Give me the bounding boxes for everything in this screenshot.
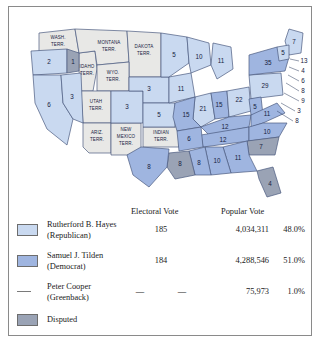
candidate-party-tilden: (Democrat) xyxy=(47,262,103,273)
territory-label-dakota-2: TERR. xyxy=(137,51,151,56)
results-legend-table: Electoral Vote Popular Vote Rutherford B… xyxy=(9,206,311,334)
state-label-virginia: 11 xyxy=(264,110,271,117)
state-label-new-york: 35 xyxy=(264,59,272,66)
candidate-name-hayes: Rutherford B. Hayes (Republican) xyxy=(47,220,117,241)
state-label-alabama: 10 xyxy=(213,157,221,164)
state-label-illinois: 21 xyxy=(199,105,207,112)
territory-label-indian-1: INDIAN xyxy=(153,130,169,135)
state-label-ohio: 22 xyxy=(235,96,243,103)
state-label-north-carolina: 10 xyxy=(263,128,271,135)
state-label-maryland: 8 xyxy=(295,117,299,124)
table-row-cooper: Peter Cooper (Greenback) — — 75,973 1.0% xyxy=(9,284,311,309)
state-label-indiana: 15 xyxy=(215,101,223,108)
state-label-idaho-sliver: 1 xyxy=(71,58,75,65)
territory-label-montana-1: MONTANA xyxy=(98,40,121,45)
state-label-new-jersey: 9 xyxy=(301,97,305,104)
state-label-tennessee: 12 xyxy=(219,136,227,143)
state-label-west-virginia: 5 xyxy=(253,103,257,110)
state-label-maine: 7 xyxy=(292,38,296,45)
state-label-louisiana: 8 xyxy=(178,160,182,167)
state-label-nebraska: 3 xyxy=(147,85,151,92)
territory-label-montana-2: TERR. xyxy=(102,47,116,52)
popular-vote-tilden: 4,288,546 xyxy=(213,256,269,265)
state-label-georgia: 11 xyxy=(235,154,242,161)
state-label-nevada: 3 xyxy=(70,93,74,100)
legend-swatch-disputed xyxy=(17,314,38,326)
leader-line-rhode-island xyxy=(288,75,299,81)
territory-label-idaho-1: IDAHO xyxy=(80,64,95,69)
state-label-connecticut: 8 xyxy=(301,87,305,94)
territory-label-dakota-1: DAKOTA xyxy=(135,44,154,49)
election-map-figure: 2 1 6 3 3 3 5 5 10 11 21 11 15 22 29 35 … xyxy=(0,0,322,364)
candidate-name-tilden-line1: Samuel J. Tilden xyxy=(47,251,103,260)
state-label-california: 6 xyxy=(47,101,51,108)
state-label-massachusetts: 4 xyxy=(301,67,305,74)
state-label-pennsylvania: 29 xyxy=(261,82,269,89)
state-label-missouri: 15 xyxy=(182,111,190,118)
popular-vote-hayes: 4,034,311 xyxy=(213,225,269,234)
territory-label-utah-2: TERR. xyxy=(89,106,103,111)
popular-vote-cooper: 75,973 xyxy=(213,287,269,296)
territory-label-new-mexico-2: MEXICO xyxy=(117,134,136,139)
legend-swatch-hayes xyxy=(17,224,38,236)
leader-state-labels: 13 4 6 8 9 3 8 xyxy=(295,57,308,124)
leader-line-new-jersey xyxy=(284,93,299,101)
candidate-name-cooper: Peter Cooper (Greenback) xyxy=(47,282,91,303)
territory-label-utah-1: UTAH xyxy=(90,99,102,104)
state-label-mississippi: 8 xyxy=(197,159,201,166)
state-label-florida: 4 xyxy=(268,180,272,187)
territory-label-washington-2: TERR. xyxy=(51,42,65,47)
legend-swatch-tilden xyxy=(17,255,38,267)
table-row-tilden: Samuel J. Tilden (Democrat) 184 4,288,54… xyxy=(9,253,311,278)
territory-label-washington-1: WASH. xyxy=(50,35,65,40)
state-label-wisconsin: 10 xyxy=(195,53,203,60)
leader-line-massachusetts xyxy=(289,67,299,71)
state-label-colorado: 3 xyxy=(125,103,129,110)
territory-label-wyoming-2: TERR. xyxy=(106,77,120,82)
candidate-name-cooper-line1: Peter Cooper xyxy=(47,282,91,291)
territory-label-arizona-1: ARIZ. xyxy=(91,130,103,135)
percent-tilden: 51.0% xyxy=(273,256,305,265)
column-header-electoral-vote: Electoral Vote xyxy=(131,207,178,216)
us-electoral-map: 2 1 6 3 3 3 5 5 10 11 21 11 15 22 29 35 … xyxy=(9,7,311,205)
candidate-party-cooper: (Greenback) xyxy=(47,293,91,304)
state-label-vermont: 5 xyxy=(281,49,285,56)
legend-label-disputed: Disputed xyxy=(47,315,77,324)
candidate-party-hayes: (Republican) xyxy=(47,231,117,242)
electoral-vote-cooper-dash1: — xyxy=(136,287,144,296)
candidate-name-hayes-line1: Rutherford B. Hayes xyxy=(47,220,117,229)
candidate-name-tilden: Samuel J. Tilden (Democrat) xyxy=(47,251,103,272)
state-label-oregon: 2 xyxy=(47,58,51,65)
table-row-disputed: Disputed xyxy=(9,312,311,337)
electoral-vote-tilden: 184 xyxy=(131,256,191,265)
territory-label-idaho-2: TERR. xyxy=(80,71,94,76)
table-row-hayes: Rutherford B. Hayes (Republican) 185 4,0… xyxy=(9,222,311,247)
electoral-vote-cooper-dash2: — xyxy=(178,287,186,296)
leader-line-connecticut xyxy=(286,83,299,91)
percent-hayes: 48.0% xyxy=(273,225,305,234)
state-label-arkansas: 6 xyxy=(187,135,191,142)
column-header-popular-vote: Popular Vote xyxy=(221,207,264,216)
territory-label-indian-2: TERR. xyxy=(154,137,168,142)
percent-cooper: 1.0% xyxy=(273,287,305,296)
state-label-minnesota: 5 xyxy=(172,51,176,58)
leader-line-new-hampshire xyxy=(290,59,299,61)
state-label-texas: 8 xyxy=(147,163,151,170)
state-label-rhode-island: 6 xyxy=(301,77,305,84)
territory-label-arizona-2: TERR. xyxy=(90,137,104,142)
state-label-kentucky: 12 xyxy=(221,123,229,130)
state-label-kansas: 5 xyxy=(157,111,161,118)
territory-label-new-mexico-3: TERR. xyxy=(119,141,133,146)
legend-dash-cooper xyxy=(17,291,31,292)
territory-label-new-mexico-1: NEW xyxy=(121,127,132,132)
state-label-michigan: 11 xyxy=(218,57,225,64)
state-label-delaware: 3 xyxy=(297,107,301,114)
state-label-iowa: 11 xyxy=(178,85,185,92)
state-label-new-hampshire: 13 xyxy=(300,57,308,64)
leader-line-delaware xyxy=(281,103,295,111)
electoral-vote-hayes: 185 xyxy=(131,225,191,234)
territory-label-wyoming-1: WYO. xyxy=(107,70,119,75)
electoral-vote-cooper: — — xyxy=(119,287,203,296)
state-label-south-carolina: 7 xyxy=(259,143,263,150)
